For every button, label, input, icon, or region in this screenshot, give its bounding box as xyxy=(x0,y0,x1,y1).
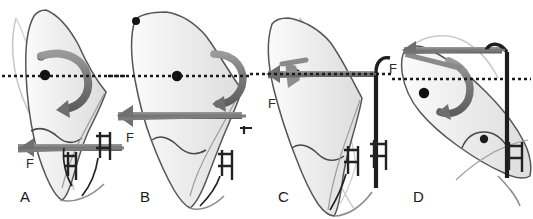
centre-of-resistance-marker xyxy=(419,88,429,98)
panel-b-group xyxy=(117,12,252,209)
panel-label-a: A xyxy=(20,188,31,205)
orthodontic-bracket xyxy=(82,132,110,196)
panel-a-group xyxy=(13,10,124,201)
panel-d-group xyxy=(402,36,531,206)
figure-container: A F B F C F D F xyxy=(0,0,533,219)
arch-continuation xyxy=(498,176,520,206)
orthodontic-bracket xyxy=(240,126,252,134)
force-label-b: F xyxy=(126,130,134,145)
panel-label-c: C xyxy=(278,188,289,205)
force-label-d: F xyxy=(389,61,397,76)
appliance-hook xyxy=(376,58,390,72)
figure-canvas xyxy=(0,0,533,219)
force-label-c: F xyxy=(268,96,276,111)
tooth-silhouette xyxy=(268,18,362,216)
bracket-point-marker xyxy=(132,17,140,25)
appliance-post xyxy=(376,58,390,188)
tooth-silhouette xyxy=(402,46,531,180)
panel-label-b: B xyxy=(140,188,151,205)
apex-marker xyxy=(480,135,488,143)
force-label-a: F xyxy=(26,156,34,171)
panel-c-group xyxy=(266,18,390,216)
panel-label-d: D xyxy=(413,188,424,205)
